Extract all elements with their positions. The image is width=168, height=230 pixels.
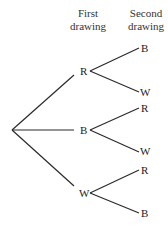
branch-b-r bbox=[90, 108, 139, 130]
branch-w-r bbox=[90, 170, 139, 193]
node-b-w: W bbox=[140, 145, 150, 157]
branch-r-b bbox=[90, 48, 139, 71]
node-r-w: W bbox=[140, 86, 150, 98]
node-first-b: B bbox=[80, 124, 87, 136]
branch-root-w bbox=[12, 130, 74, 186]
branch-b-w bbox=[90, 130, 139, 152]
node-first-r: R bbox=[80, 65, 87, 77]
node-w-b: B bbox=[141, 207, 148, 219]
branch-r-w bbox=[90, 71, 139, 92]
branch-root-r bbox=[12, 75, 74, 130]
node-first-w: W bbox=[79, 187, 89, 199]
node-r-b: B bbox=[141, 42, 148, 54]
node-b-r: R bbox=[141, 102, 148, 114]
node-w-r: R bbox=[141, 164, 148, 176]
branch-w-b bbox=[90, 193, 139, 213]
